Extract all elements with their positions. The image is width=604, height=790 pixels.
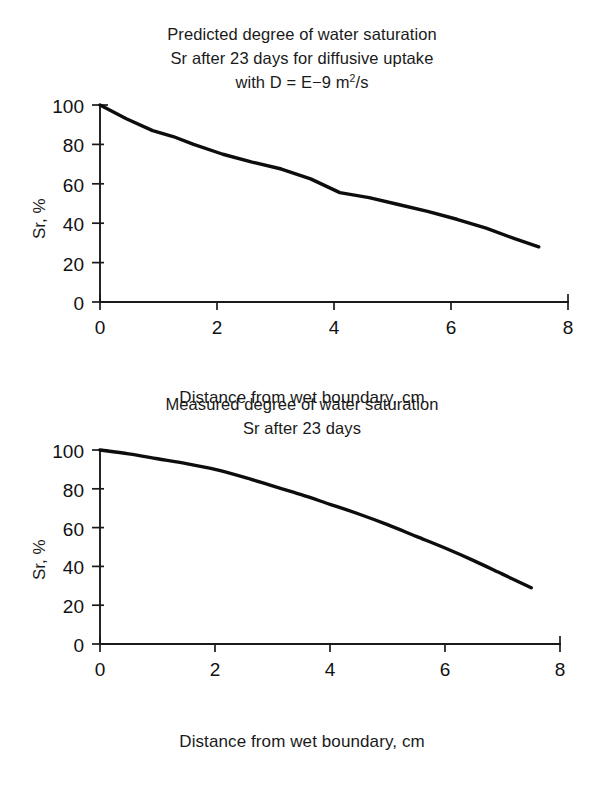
predicted-plot-area: Sr, % 100 80 [0, 94, 604, 394]
predicted-ytick-20: 20 [63, 254, 84, 275]
measured-ytick-80: 80 [63, 480, 84, 501]
figure-page: Predicted degree of water saturation Sr … [0, 0, 604, 790]
measured-chart-svg: 100 80 60 40 20 0 0 2 4 [0, 440, 604, 740]
predicted-xtick-6: 6 [446, 317, 457, 338]
predicted-title-line-3: with D = E−9 m2/s [0, 70, 604, 94]
predicted-x-ticklabels: 0 2 4 6 8 [95, 317, 574, 338]
measured-y-ticklabels: 100 80 60 40 20 0 [52, 441, 84, 656]
predicted-y-ticklabels: 100 80 60 40 20 0 [52, 96, 84, 314]
measured-xtick-0: 0 [95, 659, 106, 680]
predicted-ytick-60: 60 [63, 175, 84, 196]
predicted-chart-title: Predicted degree of water saturation Sr … [0, 0, 604, 94]
measured-ytick-40: 40 [63, 557, 84, 578]
measured-xtick-2: 2 [210, 659, 221, 680]
predicted-ytick-0: 0 [73, 293, 84, 314]
measured-title-line-1: Measured degree of water saturation [0, 392, 604, 416]
predicted-chart-svg: 100 80 60 40 20 0 0 [0, 94, 604, 394]
measured-xtick-8: 8 [555, 659, 566, 680]
predicted-title-line-3-prefix: with D = E−9 m [235, 73, 349, 91]
measured-saturation-figure: Measured degree of water saturation Sr a… [0, 382, 604, 790]
measured-ytick-100: 100 [52, 441, 84, 462]
predicted-saturation-figure: Predicted degree of water saturation Sr … [0, 0, 604, 390]
measured-ytick-60: 60 [63, 519, 84, 540]
predicted-title-line-1: Predicted degree of water saturation [0, 22, 604, 46]
measured-ytick-20: 20 [63, 596, 84, 617]
measured-title-line-2: Sr after 23 days [0, 416, 604, 440]
predicted-xtick-8: 8 [563, 317, 574, 338]
measured-plot-area: Sr, % 100 80 60 40 20 [0, 440, 604, 740]
predicted-ytick-100: 100 [52, 96, 84, 117]
predicted-title-line-2: Sr after 23 days for diffusive uptake [0, 46, 604, 70]
predicted-xtick-4: 4 [329, 317, 340, 338]
measured-x-ticklabels: 0 2 4 6 8 [95, 659, 566, 680]
measured-saturation-curve [100, 450, 531, 588]
predicted-xtick-0: 0 [95, 317, 106, 338]
predicted-ytick-40: 40 [63, 214, 84, 235]
measured-chart-title: Measured degree of water saturation Sr a… [0, 382, 604, 440]
predicted-ytick-80: 80 [63, 135, 84, 156]
measured-xtick-4: 4 [325, 659, 336, 680]
measured-ytick-0: 0 [73, 635, 84, 656]
predicted-title-line-3-suffix: /s [356, 73, 369, 91]
predicted-saturation-curve [100, 105, 539, 247]
predicted-xtick-2: 2 [212, 317, 223, 338]
measured-xtick-6: 6 [440, 659, 451, 680]
